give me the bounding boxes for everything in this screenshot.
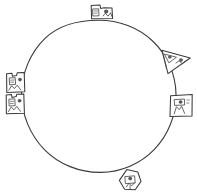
main-circle	[22, 20, 176, 172]
sketch-illustration	[0, 0, 197, 195]
box-object-right[interactable]	[170, 94, 192, 116]
hexagon-object-bottom[interactable]	[119, 170, 141, 190]
sketch-canvas: Circle with objects placed around its pe…	[0, 0, 197, 195]
triangle-object-upper-right[interactable]	[162, 50, 190, 73]
box-object-left-upper[interactable]	[7, 73, 25, 93]
box-object-top[interactable]	[91, 5, 112, 19]
box-object-left-lower[interactable]	[6, 94, 24, 114]
